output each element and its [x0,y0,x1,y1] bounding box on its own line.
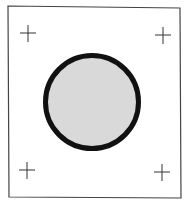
gray-sample-circle [46,56,139,149]
registration-card-diagram [0,0,189,205]
